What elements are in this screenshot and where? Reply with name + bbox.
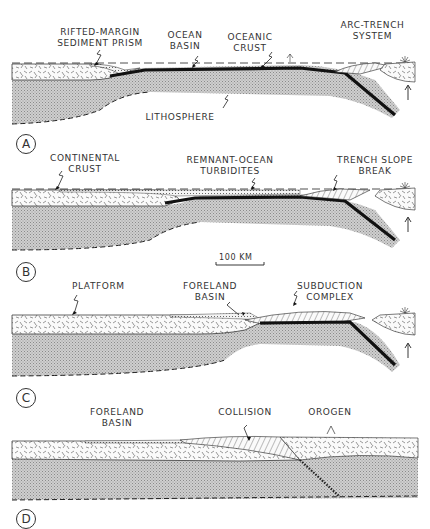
volcano-icon [400, 307, 410, 313]
scale-bar [216, 262, 264, 265]
volcano-icon [400, 182, 410, 188]
label-line: CRUST [45, 164, 125, 175]
label-line: FORELAND [82, 407, 152, 418]
label-line: OCEANIC [220, 32, 280, 43]
panel-letter-c: C [16, 388, 36, 408]
scale-bar-label: 100 KM [219, 253, 253, 262]
panel-b-section [12, 182, 415, 250]
uplift-arrow-icon [405, 217, 411, 232]
label-remnant-ocean-turbidites: REMNANT-OCEAN TURBIDITES [180, 155, 280, 177]
foreland-basin-fill [85, 440, 190, 443]
panel-c-section [12, 307, 415, 376]
label-line: BASIN [160, 41, 210, 52]
label-line: TRENCH SLOPE [330, 155, 420, 166]
label-line: SUBDUCTION [290, 281, 370, 292]
label-rifted-margin: RIFTED-MARGIN SEDIMENT PRISM [35, 27, 165, 49]
panel-d-section [12, 426, 418, 500]
label-platform: PLATFORM [72, 281, 142, 292]
sea-level-symbol-icon [287, 54, 293, 62]
arc-crust [375, 188, 415, 210]
label-line: RIFTED-MARGIN [35, 27, 165, 38]
label-line: BASIN [180, 292, 240, 303]
label-ocean-basin: OCEAN BASIN [160, 30, 210, 52]
panel-letter-b: B [16, 262, 36, 282]
label-collision: COLLISION [210, 407, 280, 418]
label-line: CONTINENTAL [45, 153, 125, 164]
uplift-arrow-icon [405, 343, 411, 358]
label-line: BASIN [82, 418, 152, 429]
label-trench-slope-break: TRENCH SLOPE BREAK [330, 155, 420, 177]
arc-crust [380, 62, 415, 82]
label-line: FORELAND [180, 281, 240, 292]
arc-crust [372, 313, 415, 335]
label-line: CRUST [220, 43, 280, 54]
label-foreland-basin: FORELAND BASIN [180, 281, 240, 303]
label-arc-trench-system: ARC-TRENCH SYSTEM [330, 20, 415, 42]
label-line: SEDIMENT PRISM [35, 38, 165, 49]
label-continental-crust: CONTINENTAL CRUST [45, 153, 125, 175]
label-line: OCEAN [160, 30, 210, 41]
orogen-peak-icon [327, 426, 335, 434]
volcano-icon [400, 56, 410, 62]
label-line: ARC-TRENCH [330, 20, 415, 31]
label-oceanic-crust: OCEANIC CRUST [220, 32, 280, 54]
panel-letter-d: D [16, 509, 36, 529]
label-foreland-basin-d: FORELAND BASIN [82, 407, 152, 429]
label-line: COMPLEX [290, 292, 370, 303]
label-orogen: OROGEN [300, 407, 360, 418]
label-line: SYSTEM [330, 31, 415, 42]
label-line: REMNANT-OCEAN [180, 155, 280, 166]
label-subduction-complex: SUBDUCTION COMPLEX [290, 281, 370, 303]
label-line: TURBIDITES [180, 166, 280, 177]
label-line: BREAK [330, 166, 420, 177]
uplift-arrow-icon [405, 85, 411, 100]
label-lithosphere: LITHOSPHERE [140, 112, 220, 123]
panel-letter-a: A [16, 134, 36, 154]
